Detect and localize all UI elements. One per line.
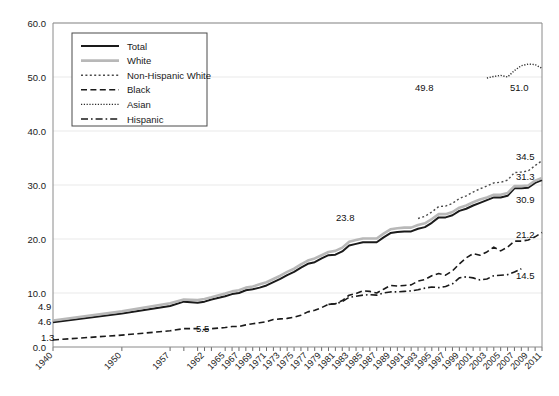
series-line-total	[53, 180, 542, 322]
y-tick-label: 30.0	[28, 180, 47, 191]
y-tick-label: 50.0	[28, 72, 47, 83]
x-tick-label: 1950	[102, 350, 123, 371]
x-tick-label: 1940	[33, 350, 54, 371]
y-tick-label: 10.0	[28, 288, 47, 299]
series-line-black	[53, 233, 542, 340]
legend-label-total: Total	[127, 41, 147, 52]
annotation-label: 4.6	[38, 316, 51, 327]
annotation-label: 5.5	[196, 323, 209, 334]
chart-legend: TotalWhiteNon-Hispanic WhiteBlackAsianHi…	[72, 33, 211, 126]
x-axis-ticks: 1940195019571962196519671969197119731975…	[33, 347, 543, 372]
annotation-label: 34.5	[516, 151, 535, 162]
chart-container: 0.010.020.030.040.050.060.0 194019501957…	[0, 0, 559, 396]
series-line-white	[53, 178, 542, 321]
annotation-label: 30.9	[516, 194, 535, 205]
x-tick-label: 1957	[150, 350, 171, 371]
legend-label-non-hispanic-white: Non-Hispanic White	[127, 70, 211, 81]
series-line-non-hispanic-white	[418, 161, 542, 219]
annotation-label: 51.0	[510, 82, 529, 93]
legend-label-white: White	[127, 55, 151, 66]
annotation-label: 4.9	[38, 301, 51, 312]
annotation-label: 23.8	[336, 212, 355, 223]
annotation-label: 1.3	[41, 332, 54, 343]
annotation-label: 14.5	[516, 270, 535, 281]
x-tick-label: 2011	[523, 350, 544, 371]
y-tick-label: 60.0	[28, 18, 47, 29]
y-tick-label: 40.0	[28, 126, 47, 137]
series-line-hispanic	[328, 269, 521, 305]
annotation-label: 21.2	[516, 229, 535, 240]
legend-label-hispanic: Hispanic	[127, 114, 164, 125]
line-chart: 0.010.020.030.040.050.060.0 194019501957…	[0, 0, 559, 396]
series-line-asian	[487, 64, 542, 78]
x-tick-label: 1962	[185, 350, 206, 371]
annotation-label: 31.3	[516, 171, 535, 182]
annotation-label: 49.8	[415, 82, 434, 93]
legend-label-asian: Asian	[127, 99, 151, 110]
legend-label-black: Black	[127, 84, 150, 95]
y-tick-label: 0.0	[33, 342, 46, 353]
y-tick-label: 20.0	[28, 234, 47, 245]
